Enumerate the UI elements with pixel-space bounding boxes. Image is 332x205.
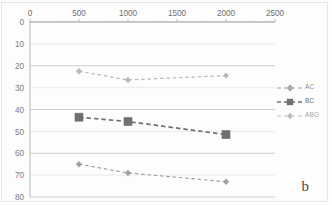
legend-item-ac[interactable]: AC bbox=[277, 79, 331, 93]
svg-text:30: 30 bbox=[15, 84, 25, 93]
svg-text:500: 500 bbox=[72, 9, 86, 18]
legend-swatch-bc bbox=[277, 94, 303, 106]
legend-item-bc[interactable]: BC bbox=[277, 93, 331, 107]
svg-text:60: 60 bbox=[15, 149, 25, 158]
chart-legend: AC BC ABG bbox=[277, 79, 331, 121]
svg-text:10: 10 bbox=[15, 40, 25, 49]
svg-text:1000: 1000 bbox=[119, 9, 138, 18]
figure-panel: 0102030405060708005001000150020002500 AC… bbox=[0, 0, 332, 205]
svg-text:80: 80 bbox=[15, 193, 25, 202]
panel-label: b bbox=[302, 178, 310, 195]
svg-text:0: 0 bbox=[28, 9, 33, 18]
svg-text:20: 20 bbox=[15, 62, 25, 71]
svg-text:70: 70 bbox=[15, 171, 25, 180]
legend-label-bc: BC bbox=[305, 97, 314, 104]
svg-text:1500: 1500 bbox=[168, 9, 187, 18]
svg-text:2500: 2500 bbox=[266, 9, 285, 18]
svg-text:50: 50 bbox=[15, 128, 25, 137]
svg-text:2000: 2000 bbox=[217, 9, 236, 18]
legend-label-abg: ABG bbox=[305, 111, 319, 118]
svg-text:0: 0 bbox=[19, 18, 24, 27]
svg-text:40: 40 bbox=[15, 106, 25, 115]
legend-item-abg[interactable]: ABG bbox=[277, 107, 331, 121]
legend-label-ac: AC bbox=[305, 83, 314, 90]
legend-swatch-ac bbox=[277, 80, 303, 92]
legend-swatch-abg bbox=[277, 108, 303, 120]
